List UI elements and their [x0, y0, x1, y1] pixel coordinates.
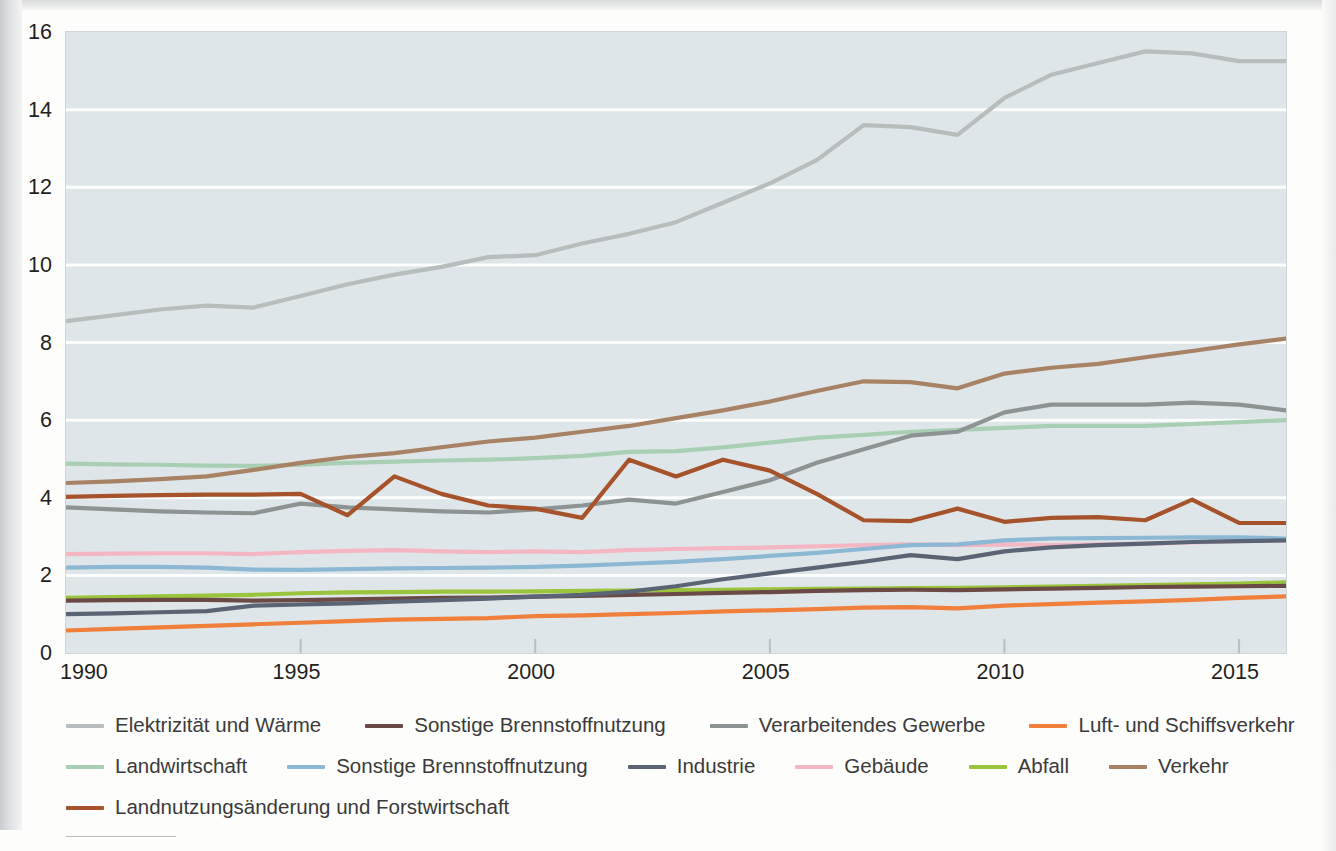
- x-axis-tick-label: 1995: [273, 660, 321, 685]
- legend-color-swatch-icon: [710, 724, 748, 728]
- legend-label: Elektrizität und Wärme: [115, 715, 321, 736]
- legend-item[interactable]: Luft- und Schiffsverkehr: [1029, 715, 1294, 736]
- series-line: [66, 339, 1286, 483]
- legend-label: Sonstige Brennstoffnutzung: [336, 756, 588, 777]
- legend-label: Sonstige Brennstoffnutzung: [414, 715, 666, 736]
- legend-color-swatch-icon: [365, 724, 403, 728]
- y-axis-tick-label: 8: [8, 330, 52, 355]
- y-axis-tick-label: 16: [8, 20, 52, 45]
- plot-series-svg: [66, 32, 1286, 653]
- y-axis-tick-label: 10: [8, 252, 52, 277]
- line-chart: [66, 32, 1286, 653]
- legend-item[interactable]: Sonstige Brennstoffnutzung: [287, 756, 588, 777]
- legend-item[interactable]: Abfall: [969, 756, 1069, 777]
- legend-color-swatch-icon: [66, 724, 104, 728]
- x-axis-tick-label: 2005: [742, 660, 790, 685]
- x-axis-tick-label: 2010: [976, 660, 1024, 685]
- y-axis-tick-label: 6: [8, 408, 52, 433]
- x-axis-tick-label: 1990: [60, 660, 108, 685]
- legend-item[interactable]: Landwirtschaft: [66, 756, 247, 777]
- legend-label: Verkehr: [1158, 756, 1229, 777]
- legend-color-swatch-icon: [969, 765, 1007, 769]
- y-axis-tick-label: 0: [8, 641, 52, 666]
- legend-color-swatch-icon: [1109, 765, 1147, 769]
- y-axis-tick-label: 12: [8, 175, 52, 200]
- y-axis-tick-label: 14: [8, 97, 52, 122]
- legend-item[interactable]: Elektrizität und Wärme: [66, 715, 321, 736]
- y-axis-tick-label: 4: [8, 485, 52, 510]
- series-line: [66, 420, 1286, 466]
- legend-color-swatch-icon: [1029, 724, 1067, 728]
- legend-row: LandwirtschaftSonstige Brennstoffnutzung…: [66, 746, 1316, 787]
- legend-label: Verarbeitendes Gewerbe: [759, 715, 986, 736]
- legend-label: Landwirtschaft: [115, 756, 247, 777]
- legend-color-swatch-icon: [287, 765, 325, 769]
- y-axis-tick-label: 2: [8, 563, 52, 588]
- series-line: [66, 540, 1286, 554]
- legend-color-swatch-icon: [795, 765, 833, 769]
- footer-rule: [66, 836, 176, 837]
- legend-item[interactable]: Landnutzungsänderung und Forstwirtschaft: [66, 797, 509, 818]
- legend-color-swatch-icon: [66, 765, 104, 769]
- x-axis-tick-label: 2015: [1211, 660, 1259, 685]
- legend-row: Landnutzungsänderung und Forstwirtschaft: [66, 787, 1316, 828]
- legend-label: Industrie: [677, 756, 756, 777]
- legend-label: Gebäude: [844, 756, 928, 777]
- legend-row: Elektrizität und WärmeSonstige Brennstof…: [66, 705, 1316, 746]
- page-canvas: 0246810121416199019952000200520102015 El…: [0, 0, 1336, 851]
- legend-label: Abfall: [1018, 756, 1069, 777]
- legend-item[interactable]: Industrie: [628, 756, 756, 777]
- chart-legend: Elektrizität und WärmeSonstige Brennstof…: [66, 705, 1316, 828]
- legend-item[interactable]: Verkehr: [1109, 756, 1229, 777]
- legend-color-swatch-icon: [66, 806, 104, 810]
- legend-item[interactable]: Verarbeitendes Gewerbe: [710, 715, 986, 736]
- x-axis-tick-label: 2000: [507, 660, 555, 685]
- legend-label: Luft- und Schiffsverkehr: [1078, 715, 1294, 736]
- legend-label: Landnutzungsänderung und Forstwirtschaft: [115, 797, 509, 818]
- legend-item[interactable]: Gebäude: [795, 756, 928, 777]
- legend-color-swatch-icon: [628, 765, 666, 769]
- legend-item[interactable]: Sonstige Brennstoffnutzung: [365, 715, 666, 736]
